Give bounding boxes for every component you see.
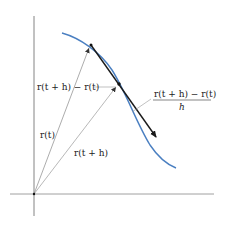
origin-point (33, 193, 35, 195)
difference-label: r(t + h) − r(t) (37, 82, 99, 92)
derivative-diagram: r(t + h) − r(t) r(t + h) − r(t) h r(t) r… (0, 0, 229, 230)
r-t-label: r(t) (40, 130, 55, 140)
point-r-t (117, 82, 120, 85)
quotient-numerator-label: r(t + h) − r(t) (154, 89, 216, 99)
secant-vector-arrow (91, 45, 156, 137)
point-r-t-plus-h (90, 44, 93, 47)
vector-r-t-plus-h-arrow (34, 48, 89, 194)
vector-r-t-arrow (34, 87, 116, 194)
quotient-denominator-label: h (179, 102, 185, 112)
r-t-plus-h-label: r(t + h) (74, 148, 108, 158)
quotient-leader-line (132, 99, 151, 112)
